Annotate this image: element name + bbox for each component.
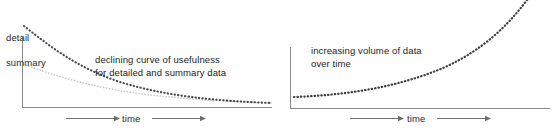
right-time-arrow-head-trailing bbox=[485, 116, 491, 121]
right-time-arrow-head-leading bbox=[398, 116, 404, 121]
chart-panel-increasing-volume: increasing volume of data over time time bbox=[278, 0, 556, 139]
right-panel-annotation: increasing volume of data over time bbox=[311, 44, 422, 70]
y-axis-label-summary: summary bbox=[6, 57, 46, 69]
left-time-arrow-head-trailing bbox=[200, 116, 206, 121]
left-x-axis-label-time: time bbox=[122, 113, 140, 125]
y-axis-label-detail: detail bbox=[6, 32, 29, 44]
figure-two-panel-data-usefulness-and-volume: detail summary declining curve of useful… bbox=[0, 0, 556, 139]
left-panel-annotation: declining curve of usefulness for detail… bbox=[95, 53, 226, 79]
right-x-axis-label-time: time bbox=[407, 113, 425, 125]
left-time-arrow-head-leading bbox=[114, 116, 120, 121]
chart-panel-declining-usefulness: detail summary declining curve of useful… bbox=[0, 0, 278, 139]
